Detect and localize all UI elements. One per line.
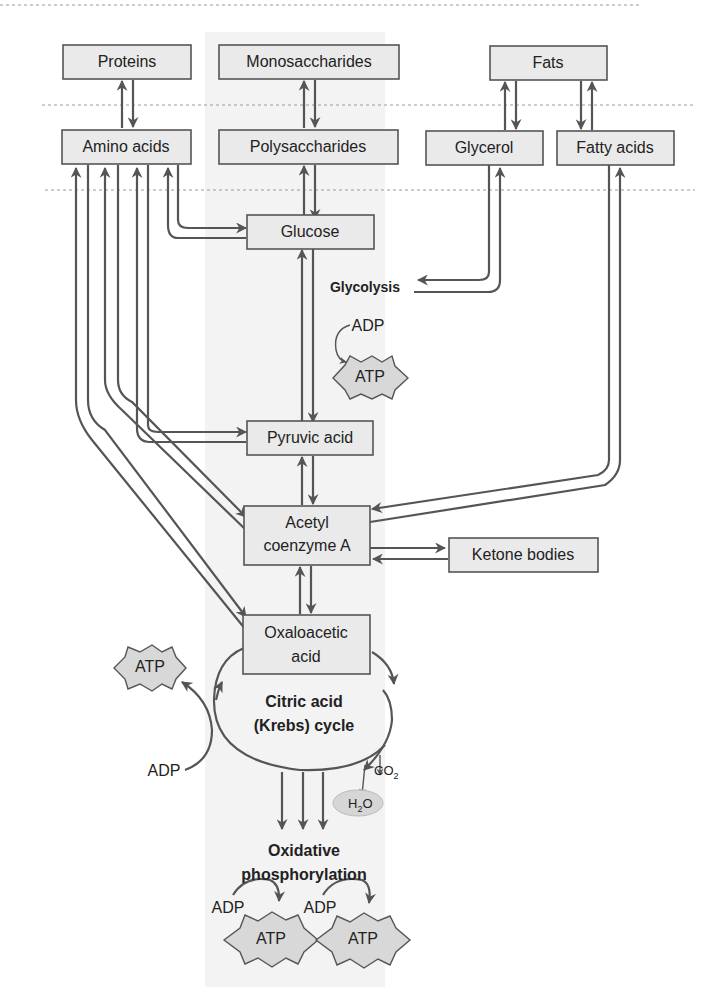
metabolism-diagram: Proteins Monosaccharides Fats Amino acid… — [0, 0, 728, 1008]
label-ketone-bodies: Ketone bodies — [472, 546, 574, 563]
label-amino-acids: Amino acids — [82, 138, 169, 155]
atp-label: ATP — [256, 930, 286, 947]
label-glycolysis: Glycolysis — [330, 279, 400, 295]
label-adp-glycolysis: ADP — [352, 317, 385, 334]
atp-label: ATP — [348, 930, 378, 947]
node-fats: Fats — [490, 46, 607, 80]
label-polysaccharides: Polysaccharides — [250, 138, 367, 155]
atp-krebs-icon: ATP — [114, 645, 186, 691]
label-glucose: Glucose — [281, 223, 340, 240]
atp-label: ATP — [355, 368, 385, 385]
label-oxphos-2: phosphorylation — [241, 866, 366, 883]
node-acetyl-coa: Acetyl coenzyme A — [244, 506, 370, 565]
label-krebs-2: (Krebs) cycle — [254, 717, 355, 734]
h2o-icon: H2O — [333, 790, 383, 816]
node-ketone-bodies: Ketone bodies — [449, 538, 598, 572]
label-fatty-acids: Fatty acids — [576, 139, 653, 156]
label-fats: Fats — [532, 54, 563, 71]
label-adp-oxphos-1: ADP — [212, 899, 245, 916]
label-adp-oxphos-2: ADP — [304, 899, 337, 916]
label-pyruvic-acid: Pyruvic acid — [267, 429, 353, 446]
label-krebs-1: Citric acid — [265, 693, 342, 710]
label-adp-krebs: ADP — [148, 762, 181, 779]
node-monosaccharides: Monosaccharides — [219, 45, 399, 79]
atp-label: ATP — [135, 658, 165, 675]
node-pyruvic-acid: Pyruvic acid — [247, 421, 373, 455]
label-glycerol: Glycerol — [455, 139, 514, 156]
node-glycerol: Glycerol — [426, 131, 543, 165]
node-amino-acids: Amino acids — [62, 130, 191, 164]
node-polysaccharides: Polysaccharides — [219, 130, 398, 164]
label-proteins: Proteins — [98, 53, 157, 70]
node-fatty-acids: Fatty acids — [557, 131, 674, 165]
node-proteins: Proteins — [63, 45, 191, 79]
label-acetyl-1: Acetyl — [285, 514, 329, 531]
label-acetyl-2: coenzyme A — [263, 537, 350, 554]
label-oxalo-2: acid — [291, 648, 320, 665]
label-oxalo-1: Oxaloacetic — [264, 624, 348, 641]
label-oxphos-1: Oxidative — [268, 842, 340, 859]
label-monosaccharides: Monosaccharides — [246, 53, 371, 70]
node-glucose: Glucose — [247, 215, 374, 249]
node-oxaloacetic-acid: Oxaloacetic acid — [243, 615, 370, 674]
